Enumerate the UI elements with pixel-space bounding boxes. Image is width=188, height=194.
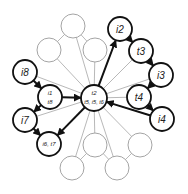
chain-edge [34, 105, 41, 112]
node-label: i1 [48, 90, 53, 96]
strong-edge [57, 107, 85, 135]
node-t3: t3 [129, 39, 153, 63]
chain-edge [33, 128, 40, 135]
node-i1t8: i1t8 [38, 85, 62, 109]
node-i8: i8 [13, 60, 37, 84]
empty-node [60, 156, 84, 180]
node-label: i2 [116, 24, 124, 35]
center-label-top: t2 [91, 90, 97, 96]
center-circle [81, 85, 107, 111]
node-i6t7: i6, t7 [37, 132, 61, 156]
empty-node [37, 38, 61, 62]
node-label: i7 [21, 115, 29, 126]
node-label: t3 [137, 46, 146, 57]
empty-node [61, 14, 85, 38]
chain-edge [148, 105, 154, 110]
empty-node [83, 38, 107, 62]
node-label: i8 [21, 67, 29, 78]
chain-edge [149, 60, 154, 66]
chain-edge [147, 83, 152, 88]
node-label: i4 [158, 114, 166, 125]
graph-diagram: i2t3i3t4i4i8i1t8i7i6, t7 t2t5, i5, t6 [0, 0, 188, 194]
empty-node [83, 133, 107, 157]
node-label: t4 [135, 92, 144, 103]
node-i3: i3 [149, 63, 173, 87]
node-t4: t4 [127, 85, 151, 109]
chain-edge [33, 80, 41, 88]
node-i4: i4 [150, 107, 174, 131]
node-i2: i2 [108, 17, 132, 41]
chain-edge [128, 38, 132, 43]
empty-node [105, 156, 129, 180]
node-label: i3 [157, 70, 165, 81]
node-i7: i7 [13, 108, 37, 132]
node-label: t8 [47, 99, 53, 105]
empty-node [128, 133, 152, 157]
center-node: t2t5, i5, t6 [81, 85, 107, 111]
center-label-bottom: t5, i5, t6 [84, 99, 105, 105]
node-label: i6, t7 [42, 141, 56, 147]
